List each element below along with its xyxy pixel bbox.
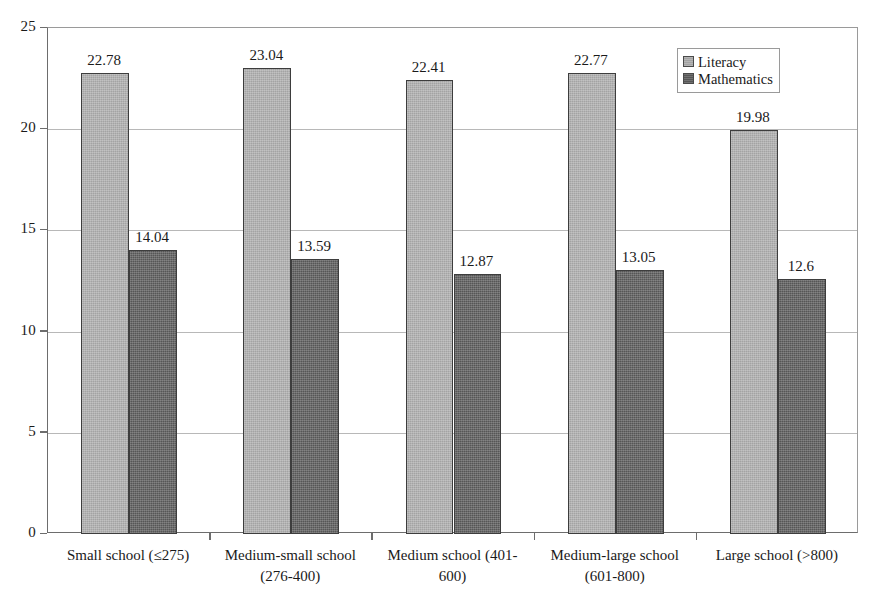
y-axis-tick-mark [40, 330, 47, 332]
y-axis-tick-label: 15 [2, 221, 36, 236]
bar-value-label: 12.87 [436, 253, 517, 269]
bar-literacy-4 [730, 130, 778, 534]
x-axis-category-label: Large school (>800) [696, 545, 858, 566]
bar-value-label: 13.59 [274, 238, 355, 254]
bar-value-label: 22.77 [550, 52, 631, 68]
plot-area [47, 27, 858, 533]
y-axis-tick-label: 5 [2, 424, 36, 439]
bar-value-label: 13.05 [598, 249, 679, 265]
x-axis-tick-mark [696, 533, 698, 540]
y-axis-tick-mark [40, 128, 47, 130]
y-axis-tick-label: 10 [2, 323, 36, 338]
y-axis-tick-mark [40, 533, 47, 535]
y-axis-tick-label: 20 [2, 120, 36, 135]
legend-swatch-mathematics-icon [683, 73, 694, 84]
bar-literacy-1 [243, 68, 291, 534]
bar-chart: 0510152025 Small school (≤275)Medium-sma… [0, 0, 886, 602]
bar-value-label: 19.98 [712, 109, 793, 125]
x-axis-category-label: Medium-large school (601-800) [534, 545, 696, 587]
bar-value-label: 12.6 [760, 258, 841, 274]
x-axis-category-label: Small school (≤275) [47, 545, 209, 566]
bar-literacy-0 [81, 73, 129, 534]
bar-mathematics-1 [291, 259, 339, 534]
x-axis-tick-mark [209, 533, 211, 540]
legend-label-literacy: Literacy [698, 54, 746, 70]
legend-item-mathematics: Mathematics [683, 70, 773, 87]
legend: Literacy Mathematics [677, 48, 780, 93]
x-axis-tick-mark [534, 533, 536, 540]
bar-literacy-3 [568, 73, 616, 534]
y-axis-tick-mark [40, 229, 47, 231]
y-axis-tick-label: 25 [2, 19, 36, 34]
bar-value-label: 22.78 [64, 52, 145, 68]
y-axis-tick-mark [40, 431, 47, 433]
y-axis-tick-label: 0 [2, 525, 36, 540]
bar-literacy-2 [406, 80, 454, 534]
bar-value-label: 14.04 [111, 229, 192, 245]
bar-mathematics-0 [129, 250, 177, 534]
x-axis-category-label: Medium-small school (276-400) [209, 545, 371, 587]
legend-label-mathematics: Mathematics [698, 71, 773, 87]
x-axis-tick-mark [371, 533, 373, 540]
bar-value-label: 23.04 [226, 47, 307, 63]
bar-mathematics-3 [616, 270, 664, 534]
x-axis-category-label: Medium school (401- 600) [371, 545, 533, 587]
legend-item-literacy: Literacy [683, 53, 773, 70]
bar-mathematics-2 [454, 274, 502, 534]
bar-value-label: 22.41 [388, 59, 469, 75]
legend-swatch-literacy-icon [683, 56, 694, 67]
y-axis-tick-mark [40, 27, 47, 29]
bar-mathematics-4 [778, 279, 826, 534]
